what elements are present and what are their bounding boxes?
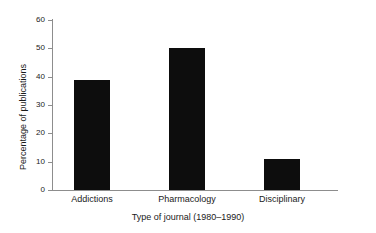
y-axis-tick [48, 20, 52, 21]
y-axis-tick-labels: 0102030405060 [0, 0, 45, 233]
bar [264, 159, 300, 190]
y-axis-tick [48, 133, 52, 134]
y-axis-tick-label: 50 [36, 44, 45, 52]
x-axis-tick-label: Pharmacology [158, 194, 216, 205]
y-axis-tick-label: 60 [36, 16, 45, 24]
x-axis-tick-label: Addictions [71, 194, 113, 205]
y-axis-tick-label: 0 [41, 186, 45, 194]
y-axis-tick [48, 77, 52, 78]
x-axis-tick-label: Disciplinary [259, 194, 305, 205]
y-axis-tick [48, 162, 52, 163]
y-axis-tick [48, 48, 52, 49]
x-axis-line [52, 190, 338, 191]
y-axis-tick-label: 20 [36, 129, 45, 137]
bar-chart-figure: Percentage of publications 0102030405060… [0, 0, 376, 233]
bar [74, 80, 110, 191]
bars-group [52, 20, 337, 190]
bar [169, 48, 205, 190]
y-axis-tick [48, 190, 52, 191]
y-axis-tick-label: 40 [36, 73, 45, 81]
y-axis-tick-label: 30 [36, 101, 45, 109]
y-axis-tick-label: 10 [36, 158, 45, 166]
y-axis-tick [48, 105, 52, 106]
x-axis-title: Type of journal (1980–1990) [0, 212, 376, 222]
